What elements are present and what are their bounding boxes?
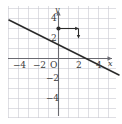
y-tick-label-minus2: −2 bbox=[46, 74, 59, 83]
y-tick-label-2: 2 bbox=[51, 34, 57, 43]
graph-figure: y x O −4 −2 2 4 4 2 −2 −4 bbox=[0, 0, 122, 124]
x-tick-label-minus2: −2 bbox=[33, 61, 46, 70]
y-tick-label-minus4: −4 bbox=[46, 94, 59, 103]
x-tick-label-4: 4 bbox=[96, 61, 102, 70]
x-tick-label-minus4: −4 bbox=[13, 61, 26, 70]
x-tick-label-2: 2 bbox=[76, 61, 82, 70]
y-tick-label-4: 4 bbox=[51, 14, 57, 23]
x-axis-label: x bbox=[108, 60, 113, 68]
origin-label: O bbox=[50, 61, 57, 70]
